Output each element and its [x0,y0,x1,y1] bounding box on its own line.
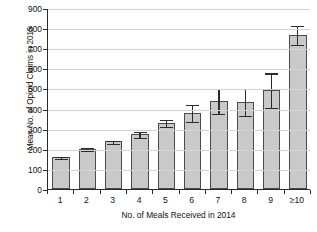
bar-group [206,9,232,189]
error-bar [245,89,246,116]
x-tick-label: 2 [73,196,99,205]
error-bar-cap-upper [265,73,278,74]
gridline [48,49,310,50]
x-tick-label: 5 [152,196,178,205]
x-tick-mark [310,190,311,194]
x-tick-mark [100,190,101,194]
x-tick-label: 6 [179,196,205,205]
error-bar-cap-upper [107,141,120,142]
chart-figure: Mean No. of Opioid Claims in 2015 010020… [0,0,317,232]
bar-group [285,9,311,189]
x-tick-mark [126,190,127,194]
x-tick-mark [152,190,153,194]
error-bar-cap-upper [55,157,68,158]
x-tick-mark [231,190,232,194]
x-tick-mark [47,190,48,194]
x-tick-mark [205,190,206,194]
y-axis-title: Mean No. of Opioid Claims in 2015 [26,0,35,179]
error-bar-cap-upper [186,105,199,106]
x-tick-label: 1 [47,196,73,205]
x-axis-title: No. of Meals Received in 2014 [47,210,310,220]
x-tick-mark [284,190,285,194]
bar-group [127,9,153,189]
gridline [48,69,310,70]
bar [289,35,306,189]
gridline [48,170,310,171]
gridline [48,29,310,30]
y-tick-label: 0 [14,186,42,194]
bar-series [48,9,310,189]
error-bar-cap-lower [55,159,68,160]
error-bar-cap-lower [186,122,199,123]
bar [52,157,69,189]
error-bar-cap-lower [160,127,173,128]
error-bar [271,73,272,108]
bar-group [101,9,127,189]
x-tick-label: 3 [100,196,126,205]
error-bar-cap-lower [107,144,120,145]
bar [158,123,175,189]
x-tick-label: 8 [231,196,257,205]
gridline [48,110,310,111]
bar [184,113,201,189]
error-bar-cap-lower [291,45,304,46]
error-bar-cap-lower [212,114,225,115]
bar-group [232,9,258,189]
gridline [48,150,310,151]
error-bar [192,105,193,122]
x-tick-mark [257,190,258,194]
bar-group [74,9,100,189]
gridline [48,130,310,131]
bar [79,149,96,189]
error-bar-cap-upper [160,120,173,121]
bar-group [258,9,284,189]
x-tick-mark [73,190,74,194]
plot-area [47,9,310,190]
x-tick-label: ≥10 [284,196,310,205]
bar [131,134,148,189]
bar-group [153,9,179,189]
bar-group [48,9,74,189]
gridline [48,89,310,90]
bar-group [180,9,206,189]
gridline [48,9,310,10]
x-tick-label: 4 [126,196,152,205]
x-tick-mark [179,190,180,194]
error-bar-cap-lower [239,116,252,117]
error-bar-cap-upper [291,26,304,27]
bar [105,141,122,189]
error-bar-cap-lower [134,138,147,139]
x-tick-label: 9 [257,196,283,205]
x-tick-label: 7 [205,196,231,205]
error-bar-cap-upper [134,132,147,133]
